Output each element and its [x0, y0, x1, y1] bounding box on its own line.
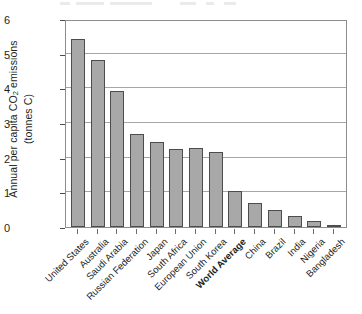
bar-india[interactable]: [288, 216, 302, 227]
y-tick-label-1: 1: [0, 187, 10, 199]
x-tick-mark-9: [254, 229, 255, 234]
y-tick-mark-0: [60, 228, 65, 229]
y-axis-title-subscript: 2: [11, 91, 20, 95]
x-tick-mark-8: [234, 229, 235, 234]
x-label-brazil: Brazil: [263, 236, 288, 261]
x-tick-mark-11: [294, 229, 295, 234]
y-tick-label-5: 5: [0, 49, 10, 61]
plot-area: [65, 20, 347, 228]
bar-series: [66, 21, 346, 227]
cropped-caption-remnant: [60, 0, 310, 7]
x-tick-mark-12: [313, 229, 314, 234]
y-tick-label-0: 0: [0, 222, 10, 234]
x-tick-mark-0: [77, 229, 78, 234]
bar-china[interactable]: [248, 203, 262, 227]
bar-saudi-arabia[interactable]: [110, 91, 124, 227]
bar-brazil[interactable]: [268, 210, 282, 227]
y-axis-title-text: Annual per capita CO2 emissions (tonnes …: [7, 40, 35, 197]
y-tick-label-6: 6: [0, 14, 10, 26]
x-tick-mark-5: [175, 229, 176, 234]
x-label-china: China: [242, 236, 267, 261]
x-tick-mark-6: [195, 229, 196, 234]
bar-world-average[interactable]: [228, 191, 242, 227]
y-axis-title-line1: Annual per capita CO: [7, 95, 19, 197]
y-tick-label-3: 3: [0, 118, 10, 130]
x-tick-mark-2: [116, 229, 117, 234]
bar-japan[interactable]: [150, 142, 164, 227]
bar-south-korea[interactable]: [209, 152, 223, 227]
chart-figure: Annual per capita CO2 emissions (tonnes …: [0, 0, 362, 314]
x-tick-mark-4: [156, 229, 157, 234]
bar-united-states[interactable]: [71, 39, 85, 227]
bar-european-union[interactable]: [189, 148, 203, 227]
bar-australia[interactable]: [91, 60, 105, 227]
bar-nigeria[interactable]: [307, 221, 321, 227]
y-tick-label-4: 4: [0, 83, 10, 95]
x-tick-mark-10: [274, 229, 275, 234]
x-tick-mark-13: [333, 229, 334, 234]
bar-russian-federation[interactable]: [130, 134, 144, 227]
x-tick-mark-3: [136, 229, 137, 234]
y-tick-label-2: 2: [0, 153, 10, 165]
y-axis-title-line2: (tonnes C): [22, 94, 34, 144]
x-tick-mark-1: [97, 229, 98, 234]
bar-south-africa[interactable]: [169, 149, 183, 227]
bar-bangladesh[interactable]: [327, 225, 341, 227]
x-tick-mark-7: [215, 229, 216, 234]
